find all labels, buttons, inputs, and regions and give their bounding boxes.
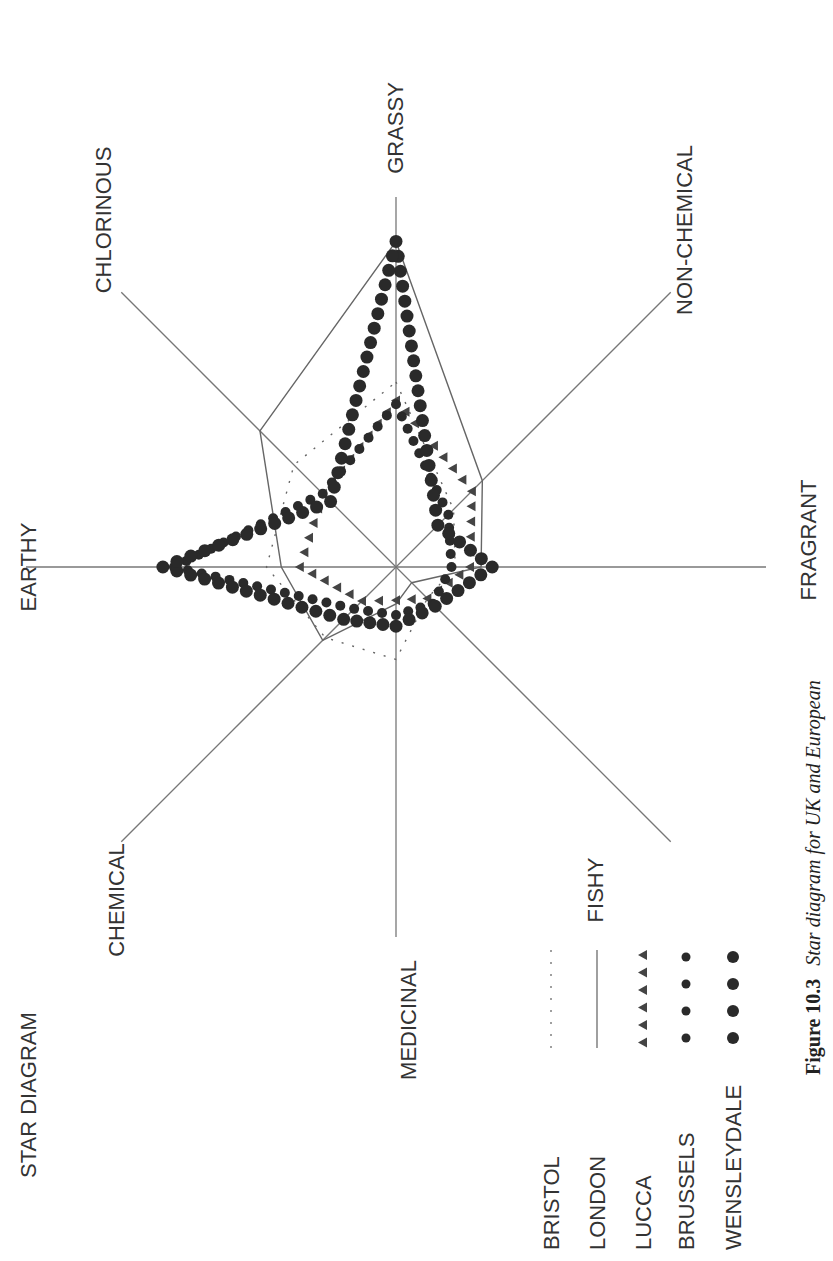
legend-item-bristol: BRISTOL: [539, 950, 564, 1250]
legend-label: WENSLEYDALE: [721, 1085, 746, 1250]
legend-swatch-triangle: [638, 1003, 647, 1013]
axis-label-non-chemical: NON-CHEMICAL: [672, 145, 697, 315]
legend-swatch-dot: [727, 1005, 739, 1017]
legend-label: BRISTOL: [539, 1156, 564, 1250]
caption-text: Star diagram for UK and European: [802, 680, 825, 965]
legend-swatch-triangle: [638, 985, 647, 995]
svg-text:Figure 10.3 Star diagram: Figure 10.3 Star diagram for UK and Euro…: [802, 680, 825, 1075]
legend-swatch-dot: [682, 980, 691, 989]
legend-label: LONDON: [585, 1156, 610, 1250]
legend-swatch-triangle: [638, 1020, 647, 1030]
legend-label: BRUSSELS: [674, 1133, 699, 1250]
legend-label: LUCCA: [631, 1175, 656, 1250]
axis-label-earthy: EARTHY: [16, 522, 41, 611]
chart-title: STAR DIAGRAM: [16, 1012, 41, 1178]
axis-label-chlorinous: CHLORINOUS: [91, 147, 116, 294]
legend-item-london: LONDON: [585, 950, 610, 1250]
legend-item-brussels: BRUSSELS: [674, 953, 699, 1251]
axis-label-medicinal: MEDICINAL: [396, 960, 421, 1080]
series: [156, 235, 498, 660]
axes: [26, 197, 766, 937]
legend-item-lucca: LUCCA: [631, 950, 656, 1250]
legend-swatch-dot: [682, 953, 691, 962]
legend: BRISTOLLONDONLUCCABRUSSELSWENSLEYDALE: [539, 950, 746, 1250]
caption-figure-label: Figure 10.3: [802, 979, 825, 1075]
legend-swatch-dot: [727, 1032, 739, 1044]
legend-swatch-dot: [727, 951, 739, 963]
figure-caption: Figure 10.3 Star diagram for UK and Euro…: [802, 680, 825, 1075]
legend-swatch-dot: [727, 978, 739, 990]
legend-swatch-triangle: [638, 1038, 647, 1048]
axis-label-fragrant: FRAGRANT: [796, 480, 821, 601]
legend-swatch-dot: [682, 1034, 691, 1043]
legend-swatch-triangle: [638, 968, 647, 978]
legend-swatch-dot: [682, 1007, 691, 1016]
axis-label-grassy: GRASSY: [383, 82, 408, 174]
axis-label-chemical: CHEMICAL: [104, 843, 129, 957]
legend-swatch-triangle: [638, 950, 647, 960]
legend-item-wensleydale: WENSLEYDALE: [721, 951, 746, 1250]
star-diagram-chart: GRASSYNON-CHEMICALFRAGRANTFISHYMEDICINAL…: [0, 0, 833, 1261]
axis-label-fishy: FISHY: [583, 857, 608, 922]
series-wensleydale: [156, 235, 498, 633]
